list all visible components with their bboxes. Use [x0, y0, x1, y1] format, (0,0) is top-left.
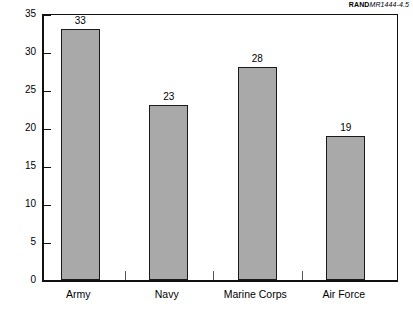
y-axis-tick-label: 30	[6, 47, 36, 57]
y-axis-tick	[44, 205, 51, 206]
bar-chart-figure: RANDMR1444-4.5 05101520253035 33232819 A…	[0, 0, 413, 312]
y-axis-tick	[44, 53, 51, 54]
y-axis-tick	[44, 91, 51, 92]
bar-value-label: 19	[314, 123, 377, 133]
bar	[238, 67, 277, 280]
x-axis-category-label: Marine Corps	[205, 288, 305, 300]
y-axis-tick	[44, 167, 51, 168]
y-axis-tick-label: 25	[6, 85, 36, 95]
rand-document-id: MR1444-4.5	[369, 1, 409, 8]
y-axis-tick-label: 10	[6, 199, 36, 209]
plot-area: 33232819	[44, 15, 397, 280]
x-axis-divider-tick	[302, 271, 303, 280]
x-axis-category-label: Army	[28, 288, 128, 300]
y-axis-tick-label: 0	[6, 275, 36, 285]
rand-brand-text: RAND	[349, 1, 370, 8]
bar	[326, 136, 365, 280]
x-axis-category-label: Air Force	[294, 288, 394, 300]
x-axis-label-group: ArmyNavyMarine CorpsAir Force	[42, 288, 398, 306]
bar-value-label: 28	[226, 54, 289, 64]
rand-credit-label: RANDMR1444-4.5	[349, 1, 409, 9]
bar-value-label: 23	[137, 92, 200, 102]
bar	[149, 105, 188, 280]
y-axis-tick-label: 15	[6, 161, 36, 171]
x-axis-divider-tick	[213, 271, 214, 280]
bar-value-label: 33	[49, 16, 112, 26]
y-axis-tick	[44, 129, 51, 130]
y-axis-tick	[44, 243, 51, 244]
plot-frame: 33232819	[42, 14, 398, 282]
y-axis-tick-label: 5	[6, 237, 36, 247]
y-axis-tick-label: 20	[6, 123, 36, 133]
x-axis-divider-tick	[125, 271, 126, 280]
y-axis-label-group: 05101520253035	[0, 14, 36, 282]
bar	[61, 29, 100, 280]
y-axis-tick-label: 35	[6, 9, 36, 19]
x-axis-category-label: Navy	[117, 288, 217, 300]
